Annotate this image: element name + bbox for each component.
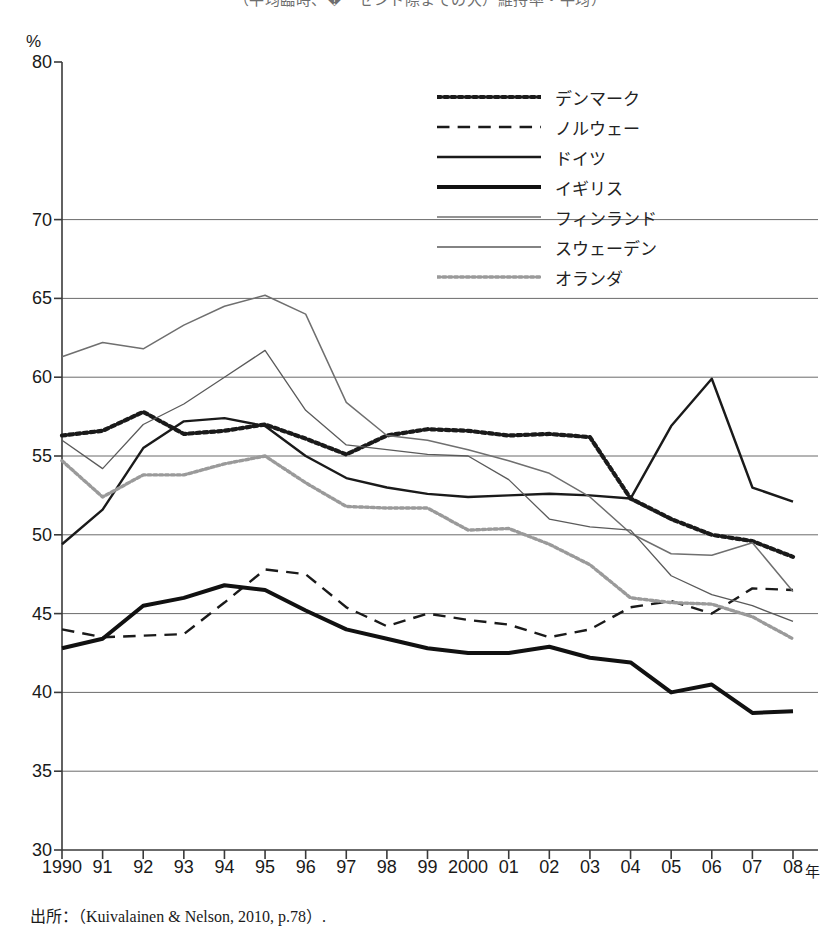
y-axis-tick-labels: 30354045505560657080 bbox=[0, 0, 52, 939]
legend-item-label: ドイツ bbox=[555, 145, 606, 170]
legend-key-icon bbox=[437, 180, 541, 194]
x-axis-tick-label: 06 bbox=[697, 858, 727, 876]
x-axis-tick-label: 95 bbox=[250, 858, 280, 876]
series-line-4 bbox=[62, 295, 793, 591]
x-axis-tick-label: 96 bbox=[291, 858, 321, 876]
legend-item-label: スウェーデン bbox=[555, 235, 657, 260]
x-axis-tick-label: 05 bbox=[656, 858, 686, 876]
series-line-2 bbox=[62, 379, 793, 544]
x-axis-tick-label: 99 bbox=[413, 858, 443, 876]
series-line-5 bbox=[62, 350, 793, 621]
x-axis-tick-label: 97 bbox=[331, 858, 361, 876]
legend-item-6: オランダ bbox=[437, 262, 737, 292]
legend-item-0: デンマーク bbox=[437, 82, 737, 112]
legend-item-label: オランダ bbox=[555, 265, 623, 290]
y-axis-tick-label: 60 bbox=[6, 368, 52, 386]
x-axis-tick-label: 98 bbox=[372, 858, 402, 876]
legend-key-icon bbox=[437, 210, 541, 224]
x-axis-tick-label: 02 bbox=[534, 858, 564, 876]
x-axis-tick-label: 01 bbox=[494, 858, 524, 876]
y-axis-tick-label: 35 bbox=[6, 762, 52, 780]
legend-item-label: デンマーク bbox=[555, 85, 640, 110]
y-axis-tick-label: 65 bbox=[6, 289, 52, 307]
legend-key-icon bbox=[437, 90, 541, 104]
legend-item-3: イギリス bbox=[437, 172, 737, 202]
x-axis-tick-label: 03 bbox=[575, 858, 605, 876]
y-axis-tick-label: 50 bbox=[6, 526, 52, 544]
legend-key-icon bbox=[437, 150, 541, 164]
clipped-figure-title: （平均臨時、�ーセント際までの大）維持率・平均） bbox=[0, 0, 840, 9]
legend-key-icon bbox=[437, 120, 541, 134]
x-axis-tick-label: 07 bbox=[737, 858, 767, 876]
x-axis-unit-label: 年 bbox=[805, 860, 820, 881]
x-axis-tick-label: 08 bbox=[778, 858, 808, 876]
chart-figure: （平均臨時、�ーセント際までの大）維持率・平均） % 3035404550556… bbox=[0, 0, 840, 939]
series-line-6 bbox=[62, 456, 793, 639]
y-axis-tick-label: 80 bbox=[6, 53, 52, 71]
y-axis-tick-label: 40 bbox=[6, 683, 52, 701]
legend-item-4: フィンランド bbox=[437, 202, 737, 232]
legend-item-label: イギリス bbox=[555, 175, 623, 200]
x-axis-tick-label: 1990 bbox=[36, 858, 88, 876]
legend-key-icon bbox=[437, 270, 541, 284]
legend-item-1: ノルウェー bbox=[437, 112, 737, 142]
legend-key-icon bbox=[437, 240, 541, 254]
chart-legend: デンマークノルウェードイツイギリスフィンランドスウェーデンオランダ bbox=[437, 82, 737, 292]
y-axis-tick-label: 55 bbox=[6, 447, 52, 465]
y-axis-tick-label: 45 bbox=[6, 605, 52, 623]
y-axis-tick-label: 70 bbox=[6, 211, 52, 229]
x-axis-tick-label: 91 bbox=[88, 858, 118, 876]
legend-item-label: ノルウェー bbox=[555, 115, 640, 140]
legend-item-2: ドイツ bbox=[437, 142, 737, 172]
x-axis-tick-label: 04 bbox=[616, 858, 646, 876]
x-axis-tick-label: 92 bbox=[128, 858, 158, 876]
x-axis-tick-label: 2000 bbox=[442, 858, 494, 876]
legend-item-5: スウェーデン bbox=[437, 232, 737, 262]
legend-item-label: フィンランド bbox=[555, 205, 657, 230]
x-axis-tick-label: 94 bbox=[209, 858, 239, 876]
source-note: 出所：（Kuivalainen & Nelson, 2010, p.78）. bbox=[30, 903, 326, 927]
x-axis-tick-label: 93 bbox=[169, 858, 199, 876]
